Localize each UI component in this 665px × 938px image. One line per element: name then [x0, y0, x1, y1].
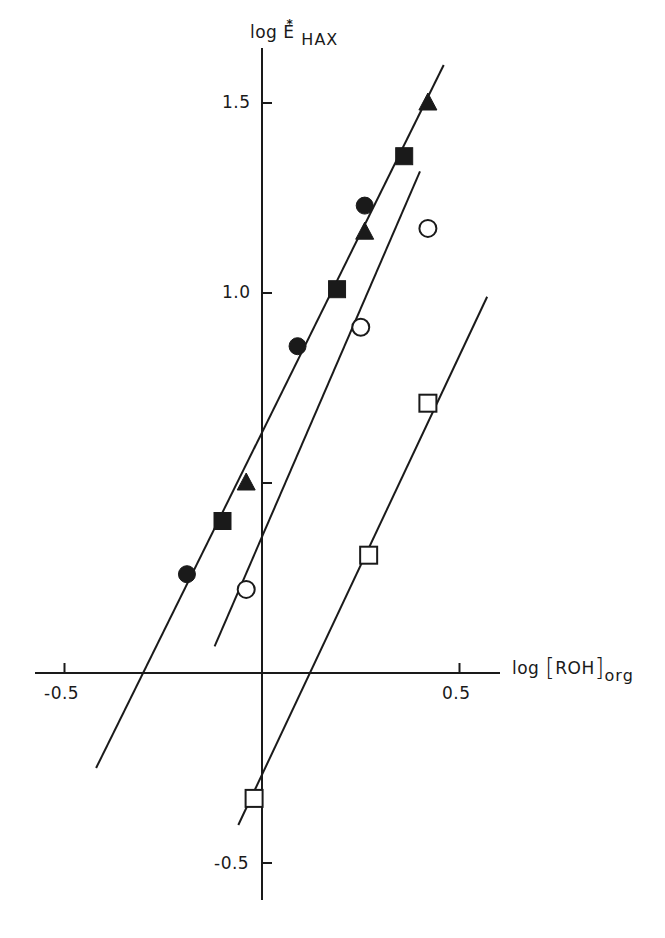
- x-tick-label-neg-0-5: -0.5: [44, 683, 79, 703]
- filled-triangle-point: [419, 93, 437, 110]
- filled-triangle-point: [356, 222, 374, 239]
- open-circle-point: [352, 319, 369, 336]
- x-axis-label-bracket-open: [: [545, 654, 555, 682]
- x-axis-label-bracket-close: ]: [595, 654, 605, 682]
- y-axis-label: log E*HAX: [250, 22, 338, 42]
- open-circle-point: [419, 220, 436, 237]
- filled-circle-point: [356, 197, 373, 214]
- x-axis-label-sub: org: [605, 666, 634, 685]
- x-axis-label-inner: ROH: [555, 658, 594, 678]
- open-square-point: [419, 395, 436, 412]
- filled-circle-point: [289, 338, 306, 355]
- filled-circle-point: [178, 566, 195, 583]
- open-square-point: [246, 790, 263, 807]
- line-open-circles: [215, 171, 420, 646]
- scatter-plot: [0, 0, 665, 938]
- open-circle-point: [238, 581, 255, 598]
- data-points: [178, 93, 436, 807]
- fit-lines: [96, 65, 487, 825]
- y-tick-label-1-5: 1.5: [222, 92, 251, 112]
- x-axis-label: log [ROH]org: [512, 652, 634, 680]
- filled-square-point: [396, 148, 413, 165]
- y-tick-label-neg-0-5: -0.5: [214, 853, 249, 873]
- filled-square-point: [329, 281, 346, 298]
- open-square-point: [360, 547, 377, 564]
- x-tick-label-0-5: 0.5: [442, 683, 471, 703]
- axes: [35, 48, 500, 900]
- filled-square-point: [214, 513, 231, 530]
- line-filled-symbols: [96, 65, 444, 768]
- y-axis-label-sub: HAX: [301, 30, 338, 49]
- x-axis-label-prefix: log: [512, 658, 539, 678]
- y-axis-label-sup: *: [287, 17, 294, 31]
- y-tick-label-1-0: 1.0: [222, 282, 251, 302]
